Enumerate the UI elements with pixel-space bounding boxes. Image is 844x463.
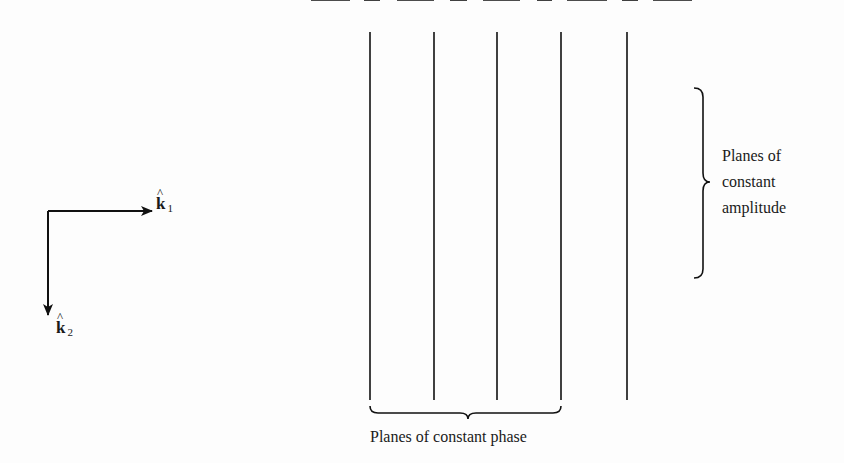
hat-accent: ^	[57, 309, 63, 325]
phase-brace-icon	[370, 406, 561, 419]
phase-label: Planes of constant phase	[370, 428, 527, 446]
vector-subscript: 2	[67, 326, 73, 338]
vector-subscript: 1	[167, 202, 173, 214]
constant-phase-lines	[370, 32, 627, 400]
diagram-drawing	[0, 0, 844, 463]
k2-label: ^k2	[56, 318, 73, 338]
amplitude-brace-icon	[694, 88, 710, 278]
amplitude-label: Planes of constant amplitude	[722, 143, 786, 221]
k1-label: ^k1	[156, 194, 173, 214]
amplitude-label-line: Planes of	[722, 143, 786, 169]
amplitude-label-line: amplitude	[722, 195, 786, 221]
hat-accent: ^	[157, 185, 163, 201]
diagram-canvas: ^k1 ^k2 Planes of constant amplitude Pla…	[0, 0, 844, 463]
unit-vector-axes	[48, 211, 152, 315]
amplitude-label-line: constant	[722, 169, 786, 195]
